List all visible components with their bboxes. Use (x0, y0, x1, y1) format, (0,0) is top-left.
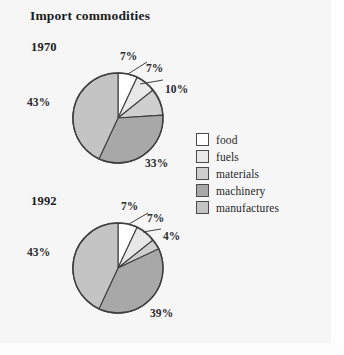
legend-label-food: food (216, 134, 237, 146)
pie-1992-label-fuels: 7% (147, 212, 164, 224)
pie-year-label-1992: 1992 (31, 194, 57, 209)
pie-chart-1992 (70, 220, 166, 316)
legend-item-machinery: machinery (196, 182, 306, 199)
pie-1970-label-food: 7% (120, 50, 137, 62)
legend-item-fuels: fuels (196, 148, 306, 165)
pie-1992-label-materials: 4% (163, 230, 180, 242)
legend-label-materials: materials (216, 168, 259, 180)
legend-label-machinery: machinery (216, 185, 265, 197)
pie-1992-label-manufactures: 43% (27, 246, 50, 258)
legend-item-manufactures: manufactures (196, 199, 306, 216)
pie-chart-1970 (70, 70, 166, 166)
figure-canvas: Import commodities 1970 1992 7% 7% 10% 3… (0, 0, 344, 355)
figure-title: Import commodities (30, 8, 150, 24)
legend-swatch-machinery (196, 184, 209, 197)
legend-swatch-food (196, 133, 209, 146)
pie-1970-label-machinery: 33% (145, 157, 168, 169)
page-margin-right (331, 0, 344, 355)
pie-1992-label-machinery: 39% (150, 307, 173, 319)
legend-item-materials: materials (196, 165, 306, 182)
legend-label-manufactures: manufactures (216, 202, 279, 214)
legend: food fuels materials machinery manufactu… (196, 131, 306, 216)
legend-label-fuels: fuels (216, 151, 239, 163)
legend-swatch-manufactures (196, 201, 209, 214)
pie-1970-label-materials: 10% (165, 83, 188, 95)
pie-1970-label-manufactures: 43% (27, 96, 50, 108)
pie-1992-label-food: 7% (121, 200, 138, 212)
pie-1970-label-fuels: 7% (146, 62, 163, 74)
pie-1970-svg (70, 70, 166, 166)
legend-item-food: food (196, 131, 306, 148)
pie-year-label-1970: 1970 (31, 40, 57, 55)
pie-1992-svg (70, 220, 166, 316)
legend-swatch-materials (196, 167, 209, 180)
legend-swatch-fuels (196, 150, 209, 163)
page-margin-bottom (0, 343, 344, 355)
